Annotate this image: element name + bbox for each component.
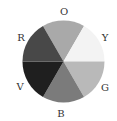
label-blue: B [57,109,64,119]
label-violet: V [16,82,23,92]
label-red: R [17,33,25,43]
label-orange: O [60,7,68,17]
label-green: G [101,83,109,93]
label-yellow: Y [102,33,109,43]
color-wheel [0,0,117,121]
